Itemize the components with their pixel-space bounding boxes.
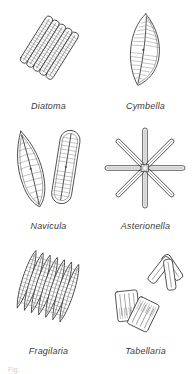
figure-cell-asterionella: Asterionella — [97, 120, 194, 240]
asterionella-star-colony-icon — [97, 120, 194, 216]
figure-cell-tabellaria: Tabellaria — [97, 240, 194, 366]
figure-label-cymbella: Cymbella — [97, 101, 194, 112]
figure-label-tabellaria: Tabellaria — [97, 346, 194, 357]
figure-label-asterionella: Asterionella — [97, 221, 194, 232]
tabellaria-zigzag-colony-icon — [97, 240, 194, 336]
fragilaria-ribbon-colony-icon — [0, 240, 97, 336]
figure-cell-cymbella: Cymbella — [97, 0, 194, 120]
cymbella-crescent-cell-icon — [97, 0, 194, 96]
diatoma-ribbon-colony-icon — [0, 0, 97, 96]
figure-label-fragilaria: Fragilaria — [0, 346, 97, 357]
figure-label-diatoma: Diatoma — [0, 101, 97, 112]
figure-cell-diatoma: Diatoma — [0, 0, 97, 120]
figure-label-navicula: Navicula — [0, 221, 97, 232]
figure-cell-navicula: Navicula — [0, 120, 97, 240]
figure-cell-fragilaria: Fragilaria — [0, 240, 97, 366]
figure-grid: Diatoma — [0, 0, 194, 366]
navicula-boat-cell-icon — [0, 120, 97, 216]
plate-caption-fragment: Fig. — [8, 366, 188, 374]
diatom-plate: Diatoma — [0, 0, 194, 374]
